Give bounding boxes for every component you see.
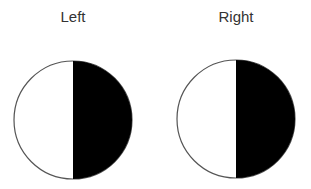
left-half-circle <box>14 61 132 179</box>
right-half-circle <box>177 60 295 178</box>
half-circle-diagram <box>0 0 311 189</box>
dark-half <box>236 60 295 178</box>
dark-half <box>73 61 132 179</box>
